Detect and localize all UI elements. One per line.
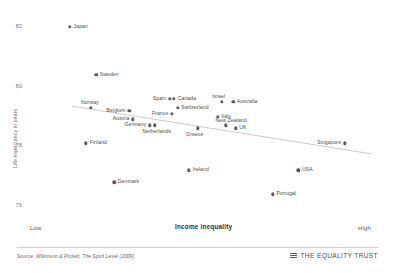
data-point-label: Belgium: [106, 108, 125, 113]
data-point-label: Japan: [74, 24, 88, 29]
x-axis-low-label: Low: [30, 225, 42, 231]
data-point-label: Spain: [153, 96, 167, 101]
data-point-label: Finland: [90, 141, 107, 146]
y-axis-tick-label: 76: [8, 203, 22, 208]
data-point-label: Norway: [81, 100, 99, 105]
data-point-label: USA: [302, 168, 313, 173]
brand-lockup: THE EQUALITY TRUST: [290, 252, 378, 259]
brand-name: THE EQUALITY TRUST: [300, 252, 378, 259]
data-point-label: France: [152, 111, 168, 116]
bars-icon: [290, 253, 297, 259]
y-axis-tick-label: 80: [8, 84, 22, 89]
trendline-layer: [0, 0, 395, 240]
data-point-label: Denmark: [118, 180, 139, 185]
footer-divider: [17, 247, 378, 248]
y-axis-tick-label: 82: [8, 24, 22, 29]
data-point-label: Portugal: [277, 192, 297, 197]
data-point-label: Sweden: [100, 72, 119, 77]
data-point-label: Ireland: [193, 168, 209, 173]
y-axis-title: Life expectancy in years: [12, 109, 18, 168]
data-point-label: Netherlands: [143, 129, 172, 134]
data-point-label: Australia: [237, 99, 258, 104]
data-point-label: Singapore: [317, 141, 341, 146]
data-point-label: Switzerland: [181, 105, 208, 110]
data-point-label: Israel: [212, 94, 225, 99]
data-point-label: Greece: [186, 132, 203, 137]
x-axis-high-label: High: [358, 225, 371, 231]
x-axis-title: Income inequality: [175, 224, 232, 230]
source-note: Source: Wilkinson & Pickett, The Spirit …: [17, 254, 134, 259]
chart-figure: 82807876 JapanSwedenNorwayBelgiumAustria…: [0, 0, 395, 273]
plot-area: 82807876 JapanSwedenNorwayBelgiumAustria…: [0, 0, 395, 240]
data-point-label: New Zealand: [216, 118, 247, 123]
data-point-label: UK: [239, 126, 246, 131]
data-point-label: Canada: [178, 96, 196, 101]
